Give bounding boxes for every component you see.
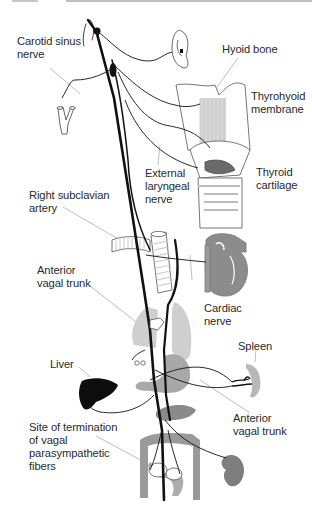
- heart: [205, 234, 248, 296]
- label-cardiac-nerve: Cardiac nerve: [204, 302, 242, 328]
- larynx: [176, 83, 250, 228]
- kidney: [222, 455, 245, 486]
- label-thyrohyoid-membrane: Thyrohyoid membrane: [251, 90, 305, 116]
- label-site-of-termination: Site of termination of vagal parasympath…: [29, 421, 117, 473]
- carotid-bifurcation: [57, 107, 76, 134]
- label-anterior-vagal-trunk-upper: Anterior vagal trunk: [37, 264, 91, 290]
- spleen-vessels: [232, 377, 252, 386]
- label-external-laryngeal-nerve: External laryngeal nerve: [145, 167, 190, 206]
- label-liver: Liver: [50, 358, 74, 371]
- ear: [172, 30, 188, 68]
- label-thyroid-cartilage: Thyroid cartilage: [256, 166, 297, 192]
- label-spleen: Spleen: [238, 340, 272, 353]
- label-carotid-sinus-nerve: Carotid sinus nerve: [17, 35, 81, 61]
- spleen: [246, 364, 260, 398]
- label-right-subclavian-artery: Right subclavian artery: [29, 189, 110, 215]
- trachea: [151, 231, 172, 293]
- label-anterior-vagal-trunk-lower: Anterior vagal trunk: [233, 412, 287, 438]
- liver: [79, 378, 118, 409]
- label-hyoid-bone: Hyoid bone: [222, 43, 278, 56]
- pancreas: [156, 405, 196, 421]
